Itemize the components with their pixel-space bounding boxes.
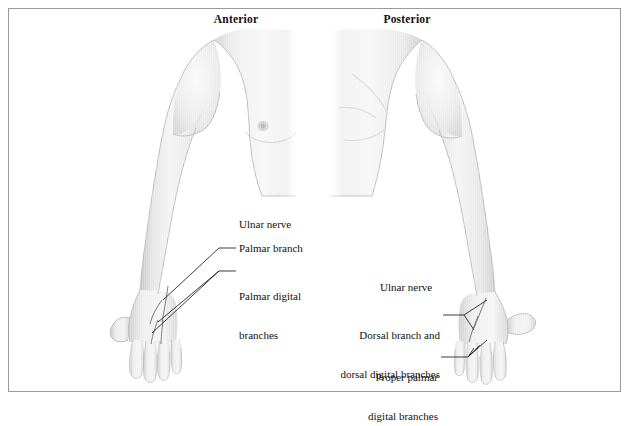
anterior-thumb bbox=[110, 317, 130, 342]
label-proper-palmar-digital-branches: Proper palmar digital branches bbox=[300, 345, 438, 426]
label-proper-palmar-line-2: digital branches bbox=[300, 410, 438, 423]
label-anterior-ulnar-nerve: Ulnar nerve bbox=[239, 218, 291, 231]
label-palmar-digital-branches: Palmar digital branches bbox=[239, 264, 301, 368]
label-palmar-digital-line-1: Palmar digital bbox=[239, 290, 301, 303]
label-dorsal-branch-line-1: Dorsal branch and bbox=[300, 329, 440, 342]
label-posterior-ulnar-nerve: Ulnar nerve bbox=[380, 281, 432, 294]
label-proper-palmar-line-1: Proper palmar bbox=[300, 371, 438, 384]
posterior-view-title: Posterior bbox=[376, 13, 438, 27]
label-palmar-digital-line-2: branches bbox=[239, 329, 301, 342]
label-palmar-branch: Palmar branch bbox=[239, 242, 303, 255]
anterior-view-title: Anterior bbox=[205, 13, 267, 27]
